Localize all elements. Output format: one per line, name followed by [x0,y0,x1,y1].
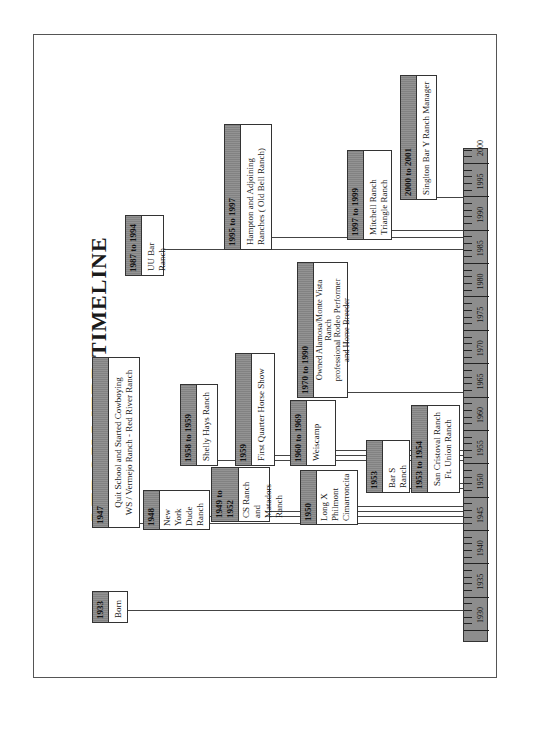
event-uu-bar: 1987 to 1994 UU Bar Ranch [125,215,164,276]
axis-tick [464,156,472,157]
axis-tick [464,617,472,618]
event-new-york-dude: 1948 New York Dude Ranch [143,490,210,530]
event-text: Singlton Bar Y Ranch Manager [417,76,436,199]
axis-tick [464,477,472,478]
event-date: 1970 to 1990 [298,263,314,397]
event-alamosa: 1970 to 1990 Owned Alamosa/Monte Vista R… [297,262,348,398]
axis-tick [464,563,489,564]
event-date: 2000 to 2001 [401,76,417,199]
axis-tick [464,463,489,464]
event-text: Born [109,592,128,622]
event-born: 1933 Born [92,591,128,623]
event-quit-school: 1947 Quit School and Started Cowboying W… [92,357,140,528]
event-date: 1950 [301,471,317,524]
axis-tick [464,377,472,378]
event-date: 1995 to 1997 [225,125,241,249]
axis-year-label: 1930 [476,607,485,623]
axis-tick [464,190,472,191]
event-text: Hampton and Adjoining Ranches ( Old Bell… [241,125,271,249]
axis-tick [464,570,472,571]
axis-tick [464,483,472,484]
event-cs-ranch: 1949 to 1952 CS Ranch and Matadors Ranch [211,467,270,522]
axis-tick [464,357,472,358]
axis-tick [464,383,472,384]
event-date: 1947 [93,358,109,527]
axis-year-label: 1995 [476,173,485,189]
event-long-x: 1950 Long X Philmont Cimarroncita [300,470,358,525]
axis-tick [464,223,472,224]
axis-year-label: 1940 [476,540,485,556]
axis-tick [464,403,472,404]
event-date: 1949 to 1952 [212,468,239,521]
axis-tick [464,457,472,458]
axis-year-label: 1975 [476,307,485,323]
axis-tick [464,557,472,558]
axis-tick [464,236,472,237]
axis-tick [464,216,472,217]
axis-year-label: 1970 [476,340,485,356]
axis-tick [464,517,472,518]
axis-year-label: 1955 [476,440,485,456]
axis-year-label: 1945 [476,507,485,523]
axis-tick [464,537,472,538]
axis-tick [464,497,489,498]
connector-line [270,511,463,512]
axis-tick [464,510,472,511]
axis-year-label: 1990 [476,207,485,223]
event-text: Owned Alamosa/Monte Vista Ranch professi… [314,263,352,397]
axis-tick [464,350,472,351]
axis-tick [464,550,472,551]
axis-tick [464,583,472,584]
axis-tick [464,437,472,438]
event-text: Weiscamp [307,401,326,465]
axis-year-label: 1980 [476,274,485,290]
axis-tick [464,417,472,418]
axis-tick [464,243,472,244]
event-mitchell: 1997 to 1999 Mitchell Ranch Triangle Ran… [347,150,392,240]
event-date: 1960 to 1969 [291,401,307,465]
event-date: 1953 to 1954 [412,406,428,492]
connector-line [358,506,463,507]
connector-line [392,230,463,231]
event-text: San Cristoval Ranch Ft. Union Ranch [428,406,458,492]
axis-tick [464,530,489,531]
axis-tick [464,503,472,504]
axis-tick [464,203,472,204]
axis-tick [464,183,472,184]
event-text: First Quarter Horse Show [252,354,271,465]
axis-year-label: 1985 [476,240,485,256]
event-hampton: 1995 to 1997 Hampton and Adjoining Ranch… [224,124,272,250]
axis-tick [464,363,489,364]
event-weiscamp: 1960 to 1969 Weiscamp [290,400,336,466]
axis-tick [464,330,489,331]
axis-tick [464,297,489,298]
event-date: 1959 [236,354,252,465]
axis-tick [464,423,472,424]
axis-tick [464,310,472,311]
axis-tick [464,450,472,451]
event-date: 1987 to 1994 [126,216,142,275]
event-bar-s: 1953 Bar S Ranch [366,440,410,493]
axis-year-label: 1950 [476,474,485,490]
connector-line [348,392,463,393]
year-axis: 1930193519401945195019551960196519701975… [463,148,488,642]
axis-tick [464,317,472,318]
axis-tick [464,150,472,151]
event-date: 1997 to 1999 [348,151,364,239]
axis-tick [464,170,472,171]
axis-tick [464,410,472,411]
axis-tick [464,397,489,398]
event-text: Shelly Hays Ranch [197,385,216,465]
axis-tick [464,250,472,251]
axis-tick [464,443,472,444]
axis-tick [464,597,489,598]
axis-year-label: 1965 [476,374,485,390]
event-first-quarter-horse: 1959 First Quarter Horse Show [235,353,275,466]
event-date: 1958 to 1959 [181,385,197,465]
connector-line [164,249,463,250]
axis-tick [464,163,489,164]
connector-line [128,610,463,611]
axis-tick [464,603,472,604]
axis-year-label: 1960 [476,407,485,423]
axis-tick [464,270,472,271]
